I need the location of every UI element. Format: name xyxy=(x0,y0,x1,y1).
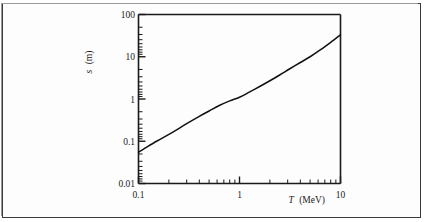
y-tick-label: 10 xyxy=(126,52,136,62)
figure-container: 100 10 1 0.1 0.01 0.1 1 10 T (MeV) s (m) xyxy=(0,0,425,222)
x-tick-label: 1 xyxy=(237,190,242,200)
y-axis-symbol: s xyxy=(84,69,94,73)
x-axis-symbol: T xyxy=(288,195,294,205)
y-tick-labels: 100 10 1 0.1 0.01 xyxy=(118,10,135,189)
x-axis-unit: (MeV) xyxy=(299,195,325,206)
data-series-line xyxy=(139,35,341,152)
x-axis-title: T (MeV) xyxy=(288,195,325,206)
y-tick-label: 100 xyxy=(121,10,136,20)
y-axis-title: s (m) xyxy=(84,51,95,74)
y-tick-label: 0.01 xyxy=(118,179,135,189)
x-tick-label: 0.1 xyxy=(133,190,145,200)
y-tick-label: 0.1 xyxy=(123,137,135,147)
plot-axes xyxy=(139,15,341,184)
svg-text:s (m): s (m) xyxy=(84,51,95,74)
log-log-plot: 100 10 1 0.1 0.01 0.1 1 10 T (MeV) s (m) xyxy=(0,0,425,222)
x-tick-label: 10 xyxy=(336,190,346,200)
y-axis-unit: (m) xyxy=(84,51,95,65)
y-tick-label: 1 xyxy=(130,95,135,105)
svg-text:T (MeV): T (MeV) xyxy=(288,195,325,206)
